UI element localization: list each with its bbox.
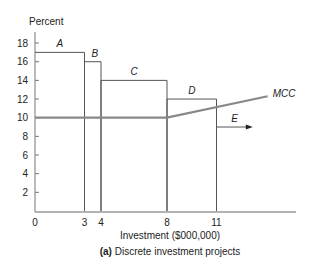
arrow-right-icon [246,125,253,130]
project-label: C [130,66,138,77]
mcc-curve: MCC [35,88,296,117]
project-label: D [188,85,195,96]
y-tick-label: 6 [22,150,28,161]
caption-text: Discrete investment projects [115,246,241,257]
x-axis-title: Investment ($000,000) [120,230,220,241]
project-label: A [55,38,63,49]
y-tick-label: 16 [17,56,29,67]
y-tick-label: 2 [22,187,28,198]
project-label: B [91,48,98,59]
y-tick-label: 4 [22,168,28,179]
figure-caption: (a) Discrete investment projects [100,246,241,257]
project-bars: ABCDE [35,38,253,211]
y-axis-title: Percent [29,16,64,27]
x-tick-label: 4 [98,217,104,228]
y-tick-label: 8 [22,131,28,142]
y-tick-label: 10 [17,112,29,123]
y-tick-label: 18 [17,38,29,49]
y-tick-label: 14 [17,75,29,86]
x-tick-label: 11 [211,217,222,228]
mcc-label: MCC [273,88,297,99]
project-label: E [231,113,238,124]
x-tick-label: 0 [32,217,38,228]
y-tick-label: 12 [17,94,29,105]
caption-prefix: (a) [100,246,112,257]
x-tick-label: 8 [164,217,170,228]
x-tick-label: 3 [82,217,88,228]
x-ticks: 034811 [32,217,222,228]
chart: Percent 24681012141618 034811 ABCDE MCC … [0,0,312,271]
